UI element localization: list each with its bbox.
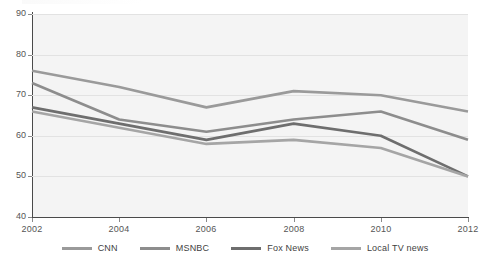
legend-swatch-local-tv-news xyxy=(331,247,361,250)
series-line-local-tv-news xyxy=(32,111,468,176)
legend-item-local-tv-news[interactable]: Local TV news xyxy=(331,243,428,253)
legend-label-fox-news: Fox News xyxy=(267,243,309,253)
series-lines xyxy=(0,0,490,259)
line-chart: 405060708090 200220042006200820102012 CN… xyxy=(0,0,490,259)
series-line-cnn xyxy=(32,71,468,112)
chart-legend: CNNMSNBCFox NewsLocal TV news xyxy=(0,240,490,256)
legend-label-cnn: CNN xyxy=(98,243,118,253)
legend-item-msnbc[interactable]: MSNBC xyxy=(140,243,210,253)
legend-item-fox-news[interactable]: Fox News xyxy=(231,243,309,253)
legend-swatch-msnbc xyxy=(140,247,170,250)
legend-label-msnbc: MSNBC xyxy=(176,243,210,253)
legend-swatch-fox-news xyxy=(231,247,261,250)
legend-label-local-tv-news: Local TV news xyxy=(367,243,428,253)
legend-item-cnn[interactable]: CNN xyxy=(62,243,118,253)
legend-swatch-cnn xyxy=(62,247,92,250)
